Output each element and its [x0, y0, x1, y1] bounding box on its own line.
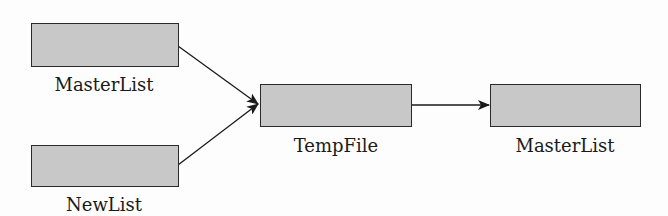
newlist-box — [31, 145, 179, 187]
masterlist-output-box — [490, 84, 641, 127]
masterlist-input-label: MasterList — [54, 74, 153, 95]
masterlist-output-label: MasterList — [515, 135, 614, 156]
arrow-masterlist-to-tempfile — [178, 46, 258, 104]
masterlist-input-box — [31, 23, 179, 67]
tempfile-label: TempFile — [294, 135, 379, 156]
arrow-newlist-to-tempfile — [178, 104, 258, 165]
tempfile-box — [260, 84, 412, 127]
newlist-label: NewList — [66, 194, 142, 215]
diagram-canvas: MasterList NewList TempFile MasterList — [0, 0, 668, 216]
